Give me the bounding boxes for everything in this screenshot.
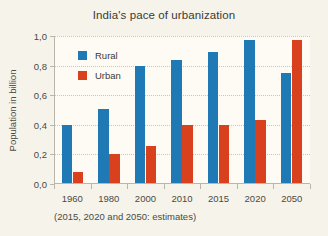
- x-tick-label: 2020: [245, 193, 266, 204]
- bar-rural-1960: [62, 125, 73, 184]
- legend-swatch-icon: [78, 51, 87, 60]
- bar-urban-2020: [255, 120, 266, 184]
- bar-urban-2050: [292, 40, 303, 184]
- x-tick-mark: [127, 184, 128, 189]
- y-tick-label: 0,6: [34, 90, 47, 101]
- legend-item-urban[interactable]: Urban: [78, 70, 121, 81]
- bar-rural-2010: [171, 60, 182, 184]
- x-tick-label: 2050: [281, 193, 302, 204]
- gridline: [54, 36, 310, 37]
- x-tick-mark: [91, 184, 92, 189]
- chart-legend: RuralUrban: [78, 50, 121, 90]
- x-tick-mark: [310, 184, 311, 189]
- y-axis-line: [54, 36, 55, 184]
- x-tick-label: 1960: [62, 193, 83, 204]
- legend-label: Urban: [95, 70, 121, 81]
- bar-rural-2000: [135, 66, 146, 184]
- x-tick-label: 2015: [208, 193, 229, 204]
- bar-rural-2015: [208, 52, 219, 184]
- x-tick-mark: [273, 184, 274, 189]
- x-tick-label: 1980: [98, 193, 119, 204]
- x-tick-label: 2010: [171, 193, 192, 204]
- bar-urban-1980: [109, 154, 120, 184]
- legend-swatch-icon: [78, 71, 87, 80]
- legend-item-rural[interactable]: Rural: [78, 50, 121, 61]
- x-tick-mark: [164, 184, 165, 189]
- x-tick-mark: [200, 184, 201, 189]
- y-axis-label: Population in billion: [6, 36, 20, 184]
- gridline: [54, 95, 310, 96]
- x-tick-mark: [54, 184, 55, 189]
- bar-urban-2000: [146, 146, 157, 184]
- bar-rural-2020: [244, 40, 255, 184]
- x-axis-line: [54, 183, 310, 184]
- y-tick-label: 1,0: [34, 31, 47, 42]
- x-tick-mark: [237, 184, 238, 189]
- bar-rural-2050: [281, 73, 292, 184]
- chart-title: India's pace of urbanization: [0, 9, 328, 21]
- bar-urban-2015: [219, 125, 230, 184]
- y-axis-label-text: Population in billion: [8, 69, 19, 151]
- y-tick-label: 0,0: [34, 179, 47, 190]
- chart-figure: India's pace of urbanization Population …: [0, 0, 328, 236]
- bar-urban-2010: [182, 125, 193, 184]
- bar-rural-1980: [98, 109, 109, 184]
- y-tick-label: 0,2: [34, 149, 47, 160]
- y-tick-label: 0,4: [34, 119, 47, 130]
- y-tick-label: 0,8: [34, 60, 47, 71]
- x-tick-label: 2000: [135, 193, 156, 204]
- legend-label: Rural: [95, 50, 118, 61]
- chart-annotation: (2015, 2020 and 2050: estimates): [54, 211, 196, 222]
